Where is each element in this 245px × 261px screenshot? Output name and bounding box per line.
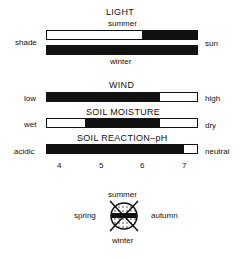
- light-right-label: sun: [205, 40, 218, 48]
- ph-tick-7: 7: [182, 162, 186, 170]
- soil-moisture-left-label: wet: [24, 121, 36, 129]
- light-summer-bar: [46, 30, 198, 40]
- soil-reaction-title: SOIL REACTION–pH: [77, 134, 168, 143]
- light-winter-bar: [46, 45, 198, 55]
- light-title: LIGHT: [106, 8, 134, 17]
- wind-filled: [47, 93, 160, 101]
- wind-right-label: high: [205, 95, 220, 103]
- light-summer-label: summer: [108, 20, 137, 28]
- soil-reaction-left-label: acidic: [14, 148, 34, 156]
- soil-reaction-right-label: neutral: [205, 148, 229, 156]
- light-summer-filled: [142, 31, 198, 39]
- soil-reaction-bar: [46, 144, 198, 154]
- light-left-label: shade: [15, 39, 37, 47]
- soil-moisture-title: SOIL MOISTURE: [86, 108, 160, 117]
- season-spring-label: spring: [74, 212, 96, 220]
- soil-moisture-bar: [46, 118, 198, 128]
- season-wheel-icon: [106, 198, 142, 234]
- ph-tick-6: 6: [140, 162, 144, 170]
- wind-title: WIND: [109, 81, 134, 90]
- wind-bar: [46, 92, 198, 102]
- soil-moisture-filled: [85, 119, 160, 127]
- wind-left-label: low: [24, 95, 36, 103]
- soil-moisture-right-label: dry: [205, 122, 216, 130]
- ph-tick-4: 4: [57, 162, 61, 170]
- light-winter-label: winter: [110, 58, 131, 66]
- season-autumn-label: autumn: [151, 212, 178, 220]
- ph-tick-5: 5: [99, 162, 103, 170]
- soil-reaction-filled: [47, 145, 184, 153]
- season-winter-label: winter: [112, 237, 133, 245]
